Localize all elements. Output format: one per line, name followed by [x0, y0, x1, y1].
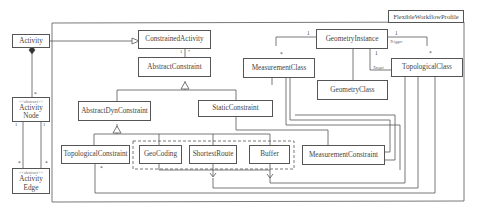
multiplicity-label: * [100, 166, 103, 172]
class-label: ShortestRoute [193, 150, 234, 158]
profile-name: FlexibleWorkflowProfile [393, 13, 458, 20]
class-activity[interactable]: Activity [12, 34, 50, 48]
class-geocoding[interactable]: GeoCoding [139, 145, 182, 164]
multiplicity-label: * [188, 50, 190, 55]
generalization-arrowhead [113, 126, 121, 133]
multiplicity-label: * [280, 52, 283, 58]
class-activity-node[interactable]: <<abstract>> Activity Node [12, 97, 50, 122]
multiplicity-label: 1 [15, 123, 17, 128]
role-label-trigger: Trigger [390, 40, 403, 44]
class-label: AbstractDynConstraint [81, 107, 148, 115]
class-measurement-class[interactable]: MeasurementClass [243, 58, 315, 78]
class-shortest-route[interactable]: ShortestRoute [189, 145, 237, 164]
class-topological-class[interactable]: TopologicalClass [391, 58, 463, 77]
multiplicity-label: 1 [375, 51, 378, 57]
class-label: GeometryClass [330, 86, 374, 94]
class-abstract-dyn-constraint[interactable]: AbstractDynConstraint [78, 101, 151, 121]
class-label: TopologicalConstraint [63, 150, 127, 158]
class-abstract-constraint[interactable]: AbstractConstraint [138, 57, 211, 77]
class-label: AbstractConstraint [147, 63, 201, 71]
class-label: GeometryInstance [326, 35, 379, 43]
class-measurement-constraint[interactable]: MeasurementConstraint [302, 145, 385, 165]
class-topological-constraint[interactable]: TopologicalConstraint [61, 145, 130, 164]
class-label: StaticConstraint [212, 104, 258, 112]
class-activity-edge[interactable]: <<abstract>> Activity Edge [12, 168, 50, 194]
class-label: MeasurementConstraint [309, 151, 378, 159]
multiplicity-label: * [34, 92, 37, 98]
class-label: Buffer [260, 150, 279, 158]
multiplicity-label: * [45, 161, 48, 167]
class-label: MeasurementClass [252, 64, 307, 72]
class-constrained-activity[interactable]: ConstrainedActivity [138, 30, 211, 49]
class-label: Activity Node [13, 104, 49, 121]
class-label: Activity [19, 37, 43, 45]
multiplicity-label: 1 [307, 31, 310, 37]
class-buffer[interactable]: Buffer [249, 145, 290, 164]
multiplicity-label: * [18, 161, 21, 167]
multiplicity-label: * [429, 51, 432, 57]
multiplicity-label: 1 [180, 50, 182, 55]
class-label: ConstrainedActivity [145, 35, 203, 43]
role-label-target: Target [373, 66, 384, 70]
multiplicity-label: 1 [43, 123, 45, 128]
generalization-arrowhead [181, 82, 189, 89]
multiplicity-label: 1 [395, 31, 398, 37]
class-geometry-class[interactable]: GeometryClass [317, 80, 388, 100]
class-label: GeoCoding [144, 150, 177, 158]
class-label: Activity Edge [13, 175, 49, 192]
class-label: TopologicalClass [402, 63, 452, 71]
class-geometry-instance[interactable]: GeometryInstance [316, 29, 388, 49]
class-static-constraint[interactable]: StaticConstraint [198, 100, 273, 117]
profile-name-tab: FlexibleWorkflowProfile [388, 10, 464, 23]
